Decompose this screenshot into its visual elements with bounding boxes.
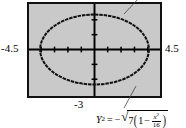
paren-open: ( [134, 114, 137, 128]
equation-function-index: 2 [102, 116, 106, 123]
equation-y2: Y2 = − √ 7 ( 1 − x2 16 ) [96, 110, 168, 128]
fraction-x2-over-16: x2 16 [152, 112, 161, 128]
graph-figure: -4.5 4.5 -3 Y2 = − √ 7 ( 1 − x2 16 ) [0, 0, 186, 128]
fraction-denominator: 16 [152, 121, 161, 128]
paren-close: ) [162, 114, 165, 128]
minus-operator: − [144, 116, 150, 126]
equation-equals: = [107, 115, 113, 125]
axis-label-right: 4.5 [165, 43, 179, 54]
calculator-screen [27, 2, 162, 98]
axis-label-bottom: -3 [74, 99, 83, 110]
equation-leading-minus: − [115, 115, 121, 125]
radical-sign: √ [121, 110, 128, 128]
term-one: 1 [138, 116, 143, 126]
axis-label-left: -4.5 [1, 43, 18, 54]
fraction-numerator: x2 [152, 112, 160, 121]
radicand: 7 ( 1 − x2 16 ) [127, 110, 168, 128]
plot-svg [29, 4, 160, 96]
radical: √ 7 ( 1 − x2 16 ) [121, 110, 168, 128]
numerator-exponent: 2 [157, 112, 160, 117]
